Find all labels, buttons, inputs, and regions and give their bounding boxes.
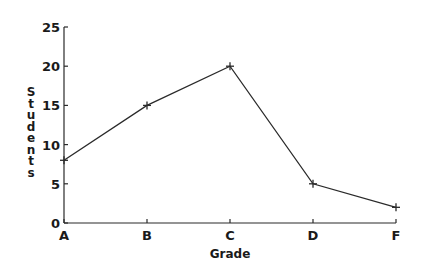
y-tick-label: 10 (42, 138, 60, 153)
plus-marker-icon (392, 203, 400, 211)
plus-marker-icon (309, 180, 317, 188)
y-tick-label: 20 (42, 59, 60, 74)
plus-marker-icon (226, 62, 234, 70)
x-tick-label: D (308, 228, 319, 243)
data-series (60, 62, 400, 211)
x-axis: ABCDF (59, 219, 400, 243)
y-axis: 0510152025 (42, 20, 68, 231)
x-tick-label: B (142, 228, 152, 243)
svg-text:s: s (27, 166, 34, 180)
series-line (64, 66, 396, 207)
y-tick-label: 25 (42, 20, 60, 35)
line-chart: 0510152025 ABCDF Grade Students (0, 0, 428, 276)
x-tick-label: C (225, 228, 235, 243)
plus-marker-icon (60, 156, 68, 164)
y-tick-label: 15 (42, 98, 60, 113)
y-axis-title: Students (27, 85, 36, 180)
y-tick-label: 5 (51, 177, 60, 192)
x-tick-label: F (392, 228, 401, 243)
x-axis-title: Grade (210, 247, 251, 261)
plus-marker-icon (143, 101, 151, 109)
x-tick-label: A (59, 228, 69, 243)
